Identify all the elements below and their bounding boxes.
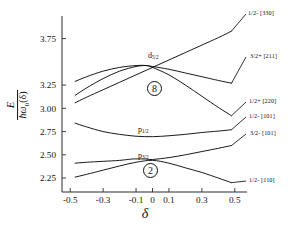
nilsson-diagram-figure: 3.753.253.002.752.502.25-0.5-0.3-0.100.1… <box>0 0 290 240</box>
delta-argument: (δ) <box>17 91 28 102</box>
y-axis-numerator: E <box>5 89 17 120</box>
y-tick-label: 3.75 <box>40 34 56 44</box>
y-tick-label: 3.00 <box>40 104 56 114</box>
magic-number-2: 2 <box>143 163 158 178</box>
label-leader-line <box>231 102 246 116</box>
label-leader-line <box>231 57 246 83</box>
hbar-symbol: ħ <box>17 113 28 118</box>
shell-p1-subscript: 1/2 <box>142 128 149 134</box>
label-leader-line <box>231 134 246 146</box>
level-label-3-2-minus-101: 3/2- [101] <box>250 130 276 136</box>
level-label-1-2-plus-220: 1/2+ [220] <box>249 98 276 104</box>
shell-label-p3-2: p3/2 <box>138 152 149 160</box>
level-label-3-2-plus-211: 3/2+ [211] <box>250 53 277 59</box>
y-tick-label: 2.50 <box>40 150 56 160</box>
plot-canvas: 3.753.253.002.752.502.25-0.5-0.3-0.100.1… <box>0 0 290 240</box>
level-label-1-2-minus-110: 1/2- [110] <box>249 177 275 183</box>
y-tick-label: 2.75 <box>40 127 56 137</box>
x-tick-label: -0.1 <box>129 195 144 205</box>
x-tick-label: 0.5 <box>229 195 241 205</box>
label-leader-line <box>231 181 246 183</box>
y-tick-label: 2.25 <box>40 173 56 183</box>
x-tick-label: 0.3 <box>196 195 208 205</box>
y-axis-denominator: ħω0(δ) <box>17 89 31 120</box>
level-label-1-2-minus-330: 1/2- [330] <box>248 10 274 16</box>
tick-labels-group: 3.753.253.002.752.502.25-0.5-0.3-0.100.1… <box>40 34 241 205</box>
omega-symbol: ω <box>17 106 28 113</box>
label-leader-line <box>231 117 246 130</box>
x-tick-label: -0.3 <box>96 195 111 205</box>
shell-label-p1-2: p1/2 <box>138 126 149 134</box>
label-leader-line <box>231 14 246 31</box>
x-tick-label: 0 <box>150 195 155 205</box>
y-axis-label: E ħω0(δ) <box>5 75 31 135</box>
x-tick-label: -0.5 <box>63 195 78 205</box>
shell-d-subscript: 5/2 <box>152 54 159 60</box>
shell-p3-subscript: 3/2 <box>142 154 149 160</box>
magic-number-8: 8 <box>147 81 162 96</box>
leader-lines-group <box>231 14 246 183</box>
omega-subscript: 0 <box>23 103 31 107</box>
x-tick-label: 0.1 <box>163 195 175 205</box>
x-axis-label: δ <box>0 206 290 222</box>
level-curve <box>75 123 231 137</box>
level-label-1-2-minus-101: 1/2- [101] <box>249 113 275 119</box>
y-tick-label: 3.25 <box>40 80 56 90</box>
shell-label-d5-2: d5/2 <box>148 52 159 60</box>
